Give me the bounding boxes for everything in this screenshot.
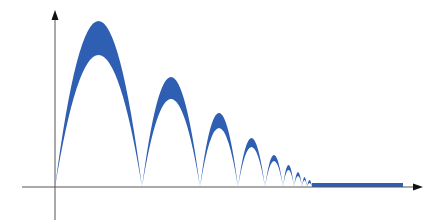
bounce-arc [238, 138, 265, 187]
bounce-arc [142, 77, 200, 187]
bounce-diagram [0, 0, 444, 223]
diagram-canvas [0, 0, 444, 223]
bounce-arc [200, 113, 238, 187]
bounce-arc [307, 180, 312, 187]
bounce-arc [302, 177, 307, 187]
rest-band [312, 183, 403, 187]
bounce-arc [283, 165, 294, 187]
bounce-arc [294, 172, 302, 187]
x-axis-arrow-icon [413, 184, 423, 191]
bounce-arc [265, 155, 283, 187]
bounce-arc [55, 21, 142, 187]
y-axis-arrow-icon [52, 10, 59, 20]
bounce-arcs [55, 21, 312, 187]
